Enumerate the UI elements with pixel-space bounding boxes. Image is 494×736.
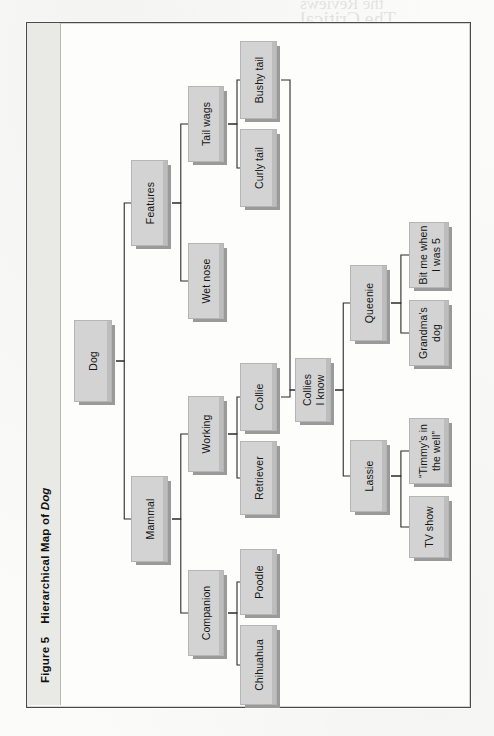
tree-link-working-to-retriever: [228, 434, 240, 478]
tree-node-label: Tail wags: [200, 102, 213, 146]
tree-node-queenie[interactable]: Queenie: [350, 265, 387, 341]
tree-link-tailwags-to-curly-tail: [228, 124, 240, 168]
tree-node-working[interactable]: Working: [188, 396, 224, 472]
tree-link-lassie-to-tv-show: [391, 476, 409, 527]
tree-node-label: Poodle: [252, 565, 265, 598]
tree-node-collies[interactable]: Collies I know: [295, 358, 331, 422]
tree-node-retriever[interactable]: Retriever: [240, 441, 277, 515]
tree-link-collies-to-lassie: [335, 390, 350, 476]
tree-link-features-to-tail-wags: [172, 124, 188, 203]
tree-node-label: Collies I know: [301, 374, 326, 406]
tree-node-grandma[interactable]: Grandma's dog: [409, 300, 449, 366]
tree-node-tvshow[interactable]: TV show: [409, 496, 449, 558]
tree-link-queenie-to-bit-me-when-i-was-5: [391, 255, 409, 303]
tree-node-label: Grandma's dog: [417, 307, 442, 359]
tree-link-bushytail-to-collies-i-know: [281, 80, 295, 390]
tree-link-mammal-to-companion: [172, 519, 188, 613]
tree-node-label: TV show: [423, 506, 436, 548]
tree-node-bitme[interactable]: Bit me when I was 5: [409, 222, 449, 288]
tree-node-label: Curly tail: [252, 147, 265, 189]
tree-link-companion-to-chihuahua: [228, 613, 240, 665]
tree-link-dog-to-mammal: [116, 361, 131, 519]
tree-node-dog[interactable]: Dog: [74, 320, 112, 402]
tree-node-features[interactable]: Features: [131, 160, 168, 246]
tree-node-label: Dog: [87, 351, 100, 371]
tree-link-lassie-to--timmy-s-in-the-well-: [391, 451, 409, 476]
tree-link-collie-to-collies-i-know: [281, 390, 295, 397]
tree-node-curlytail[interactable]: Curly tail: [240, 129, 277, 207]
tree-node-label: Queenie: [362, 283, 375, 323]
tree-node-label: Bit me when I was 5: [417, 226, 442, 285]
tree-node-label: “Timmy's in the well”: [417, 424, 442, 478]
tree-node-label: Lassie: [362, 461, 375, 492]
tree-node-timmy[interactable]: “Timmy's in the well”: [409, 418, 449, 484]
tree-node-wetnose[interactable]: Wet nose: [188, 243, 224, 319]
tree-node-label: Bushy tail: [252, 57, 265, 104]
tree-link-queenie-to-grandma-s-dog: [391, 303, 409, 333]
tree-link-collies-to-queenie: [335, 303, 350, 390]
tree-node-tailwags[interactable]: Tail wags: [188, 86, 224, 162]
tree-node-collie[interactable]: Collie: [240, 363, 277, 431]
tree-node-poodle[interactable]: Poodle: [240, 549, 277, 615]
tree-node-chihuahua[interactable]: Chihuahua: [240, 625, 277, 705]
tree-node-lassie[interactable]: Lassie: [350, 440, 387, 512]
tree-link-features-to-wet-nose: [172, 203, 188, 281]
tree-link-companion-to-poodle: [228, 582, 240, 613]
tree-node-label: Chihuahua: [252, 639, 265, 691]
tree-node-label: Wet nose: [200, 259, 213, 304]
tree-node-label: Mammal: [143, 499, 156, 540]
tree-link-working-to-collie: [228, 397, 240, 434]
tree-node-label: Retriever: [252, 456, 265, 500]
tree-node-label: Features: [143, 182, 156, 224]
hierarchical-map-canvas: DogFeaturesMammalTail wagsWet noseWorkin…: [0, 0, 494, 736]
tree-node-mammal[interactable]: Mammal: [131, 476, 168, 562]
tree-link-tailwags-to-bushy-tail: [228, 80, 240, 124]
tree-node-label: Companion: [200, 586, 213, 641]
tree-node-label: Collie: [252, 384, 265, 411]
tree-node-companion[interactable]: Companion: [188, 570, 224, 656]
tree-link-mammal-to-working: [172, 434, 188, 519]
tree-node-bushytail[interactable]: Bushy tail: [240, 41, 277, 119]
tree-link-dog-to-features: [116, 203, 131, 361]
tree-node-label: Working: [200, 414, 213, 453]
